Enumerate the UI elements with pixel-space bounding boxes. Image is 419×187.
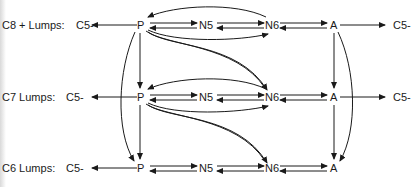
node-n5-row2: N5 xyxy=(199,91,213,103)
node-c5-source-row2: C5- xyxy=(66,91,84,103)
node-c5-product-row1: C5- xyxy=(393,19,411,31)
node-a-row3: A xyxy=(330,162,337,174)
row-label-c8-lumps: C8 + Lumps: xyxy=(2,19,65,31)
node-n6-row1: N6 xyxy=(265,19,279,31)
node-a-row1: A xyxy=(330,19,337,31)
node-c5-source-row3: C5- xyxy=(66,162,84,174)
node-n6-row2: N6 xyxy=(265,91,279,103)
node-c5-product-row2: C5- xyxy=(393,91,411,103)
node-p-row3: P xyxy=(137,162,144,174)
node-a-row2: A xyxy=(330,91,337,103)
row-label-c6-lumps: C6 Lumps: xyxy=(2,162,55,174)
node-c5-source-row1: C5- xyxy=(76,19,94,31)
node-p-row1: P xyxy=(137,19,144,31)
node-p-row2: P xyxy=(137,91,144,103)
node-n5-row1: N5 xyxy=(199,19,213,31)
row-label-c7-lumps: C7 Lumps: xyxy=(2,91,55,103)
node-n5-row3: N5 xyxy=(199,162,213,174)
node-n6-row3: N6 xyxy=(265,162,279,174)
